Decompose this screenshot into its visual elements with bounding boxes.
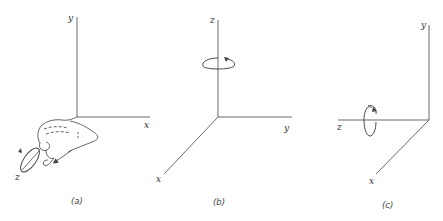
caption-c: (c) bbox=[382, 200, 393, 210]
x-axis bbox=[164, 117, 218, 174]
right-hand-icon bbox=[22, 117, 98, 170]
panel-c: y z x (c) bbox=[336, 20, 429, 210]
rotation-arrowhead-icon bbox=[18, 148, 22, 153]
x-axis-label: x bbox=[156, 174, 161, 184]
y-axis-label: y bbox=[67, 13, 74, 23]
coordinate-systems-figure: y x z (a) bbox=[0, 0, 443, 221]
x-axis bbox=[376, 120, 429, 174]
x-axis-label: x bbox=[144, 120, 149, 130]
z-axis-label: z bbox=[336, 122, 342, 132]
panel-b: z y x (b) bbox=[156, 15, 292, 207]
y-axis-label: y bbox=[283, 123, 290, 133]
z-axis-label: z bbox=[209, 15, 215, 25]
rotation-arrow-icon bbox=[364, 105, 377, 136]
caption-b: (b) bbox=[213, 197, 225, 207]
caption-a: (a) bbox=[71, 196, 83, 206]
x-axis-label: x bbox=[369, 176, 374, 186]
panel-a: y x z (a) bbox=[14, 13, 150, 206]
z-axis-label: z bbox=[14, 172, 20, 182]
rotation-arrow-icon bbox=[203, 57, 235, 69]
y-axis-label: y bbox=[420, 20, 427, 30]
